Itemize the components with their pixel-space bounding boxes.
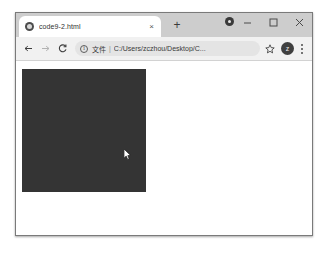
circle-dot-icon[interactable]: [225, 17, 234, 26]
kebab-dot-1: [301, 44, 303, 46]
tab-title: code9-2.html: [39, 23, 146, 30]
globe-icon: [25, 22, 34, 31]
forward-icon[interactable]: [37, 40, 54, 57]
star-icon[interactable]: [263, 42, 277, 56]
kebab-dot-3: [301, 52, 303, 54]
arrow-cursor: [124, 146, 131, 157]
address-bar-scheme-label: 文件: [92, 44, 106, 54]
browser-window: code9-2.html × +: [15, 12, 313, 236]
kebab-menu-icon[interactable]: [296, 41, 308, 56]
kebab-dot-2: [301, 48, 303, 50]
browser-tab-active[interactable]: code9-2.html ×: [19, 16, 161, 37]
info-icon[interactable]: [80, 45, 88, 53]
close-tab-icon[interactable]: ×: [146, 21, 157, 32]
window-controls: [234, 13, 312, 37]
minimize-button[interactable]: [234, 13, 260, 31]
address-bar-separator: |: [109, 45, 111, 52]
address-bar-url: C:/Users/zczhou/Desktop/C...: [114, 45, 255, 52]
dark-canvas[interactable]: [22, 69, 146, 192]
new-tab-button[interactable]: +: [168, 17, 186, 35]
browser-toolbar: 文件 | C:/Users/zczhou/Desktop/C... z: [16, 37, 312, 61]
back-icon[interactable]: [20, 40, 37, 57]
avatar[interactable]: z: [281, 42, 294, 55]
tab-strip: code9-2.html × +: [16, 13, 312, 37]
close-window-button[interactable]: [286, 13, 312, 31]
address-bar[interactable]: 文件 | C:/Users/zczhou/Desktop/C...: [75, 41, 260, 56]
reload-icon[interactable]: [54, 40, 71, 57]
page-viewport[interactable]: [16, 61, 312, 235]
maximize-button[interactable]: [260, 13, 286, 31]
